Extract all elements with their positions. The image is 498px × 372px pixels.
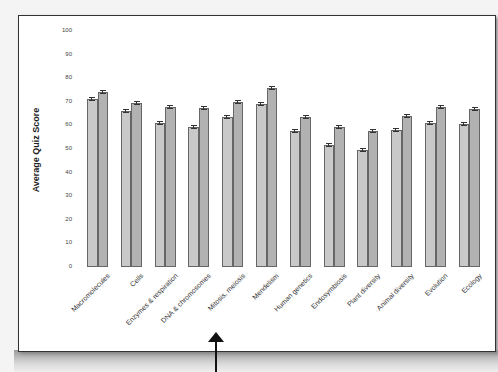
y-tick-label: 70 — [52, 98, 72, 104]
error-bar — [235, 100, 241, 104]
error-bar — [89, 97, 95, 101]
error-bar — [269, 86, 275, 90]
error-bar — [224, 115, 230, 119]
error-bar — [100, 90, 106, 94]
arrow-shaft — [215, 340, 217, 372]
error-bar — [326, 143, 332, 147]
error-bar — [258, 102, 264, 106]
bar — [165, 107, 176, 267]
error-bar — [201, 106, 207, 110]
bar — [222, 117, 233, 267]
bar — [121, 111, 132, 267]
bar — [357, 150, 368, 267]
error-bar — [292, 129, 298, 133]
error-bar — [427, 121, 433, 125]
error-bar — [336, 125, 342, 129]
bar — [402, 116, 413, 267]
y-tick-label: 0 — [52, 263, 72, 269]
bar — [459, 124, 470, 267]
bar — [436, 107, 447, 267]
y-tick-label: 100 — [52, 27, 72, 33]
bar — [324, 145, 335, 267]
error-bar — [123, 109, 129, 113]
bar — [199, 108, 210, 267]
bar — [87, 99, 98, 267]
bar — [98, 92, 109, 267]
y-tick-label: 50 — [52, 145, 72, 151]
bar — [334, 127, 345, 267]
error-bar — [167, 105, 173, 109]
frame-shadow — [14, 350, 498, 372]
y-tick-label: 90 — [52, 51, 72, 57]
bar — [131, 103, 142, 267]
bar — [155, 123, 166, 267]
bar — [290, 131, 301, 267]
y-tick-label: 40 — [52, 169, 72, 175]
error-bar — [438, 105, 444, 109]
y-tick-label: 60 — [52, 121, 72, 127]
error-bar — [134, 101, 140, 105]
y-tick-label: 30 — [52, 192, 72, 198]
error-bar — [360, 148, 366, 152]
y-tick-label: 20 — [52, 216, 72, 222]
error-bar — [404, 114, 410, 118]
bar — [267, 88, 278, 267]
bar — [425, 123, 436, 267]
y-tick-label: 10 — [52, 239, 72, 245]
error-bar — [191, 125, 197, 129]
bar — [233, 102, 244, 267]
y-axis-label: Average Quiz Score — [31, 108, 41, 193]
error-bar — [370, 129, 376, 133]
error-bar — [157, 121, 163, 125]
bar — [469, 109, 480, 267]
bar — [188, 127, 199, 267]
error-bar — [303, 115, 309, 119]
error-bar — [461, 122, 467, 126]
bar — [368, 131, 379, 267]
error-bar — [472, 107, 478, 111]
bar — [391, 130, 402, 267]
bar — [256, 104, 267, 267]
y-tick-label: 80 — [52, 74, 72, 80]
bar — [300, 117, 311, 267]
error-bar — [393, 128, 399, 132]
